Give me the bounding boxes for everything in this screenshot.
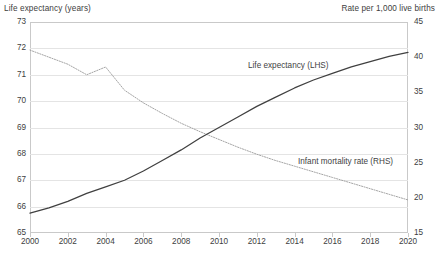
right-axis-tick-label: 15 bbox=[414, 229, 438, 237]
life-expectancy-line bbox=[30, 52, 408, 213]
left-axis-tick-label: 69 bbox=[4, 124, 26, 132]
left-axis-tick-label: 66 bbox=[4, 203, 26, 211]
x-axis-tick-label: 2014 bbox=[285, 238, 303, 246]
x-axis-tick-label: 2012 bbox=[248, 238, 266, 246]
x-axis-tick-label: 2002 bbox=[59, 238, 77, 246]
life-expectancy-label: Life expectancy (LHS) bbox=[248, 62, 329, 70]
left-axis-tick-label: 70 bbox=[4, 97, 26, 105]
x-axis-tick-label: 2018 bbox=[361, 238, 379, 246]
x-axis-tick-label: 2006 bbox=[134, 238, 152, 246]
left-axis-tick-label: 72 bbox=[4, 44, 26, 52]
x-axis-tick-label: 2020 bbox=[399, 238, 417, 246]
left-axis-tick-label: 68 bbox=[4, 150, 26, 158]
right-axis-tick-label: 20 bbox=[414, 194, 438, 202]
x-axis-tick-label: 2008 bbox=[172, 238, 190, 246]
left-axis-tick-label: 67 bbox=[4, 176, 26, 184]
series-lines bbox=[30, 22, 408, 233]
x-axis-tick-label: 2016 bbox=[323, 238, 341, 246]
left-axis-tick-label: 65 bbox=[4, 229, 26, 237]
left-axis-tick-label: 73 bbox=[4, 18, 26, 26]
right-axis-tick-label: 25 bbox=[414, 159, 438, 167]
infant-mortality-line bbox=[30, 50, 408, 200]
x-axis-tick-label: 2010 bbox=[210, 238, 228, 246]
right-axis-tick-label: 35 bbox=[414, 88, 438, 96]
right-axis-caption: Rate per 1,000 live births bbox=[341, 4, 435, 13]
right-axis-tick-label: 40 bbox=[414, 53, 438, 61]
left-axis-caption: Life expectancy (years) bbox=[4, 4, 91, 13]
chart-container: Life expectancy (years) Rate per 1,000 l… bbox=[0, 0, 440, 254]
right-axis-tick-label: 30 bbox=[414, 124, 438, 132]
x-axis-tick-label: 2000 bbox=[21, 238, 39, 246]
infant-mortality-label: Infant mortality rate (RHS) bbox=[298, 158, 393, 166]
x-axis-tick-label: 2004 bbox=[96, 238, 114, 246]
left-axis-tick-label: 71 bbox=[4, 71, 26, 79]
right-axis-tick-label: 45 bbox=[414, 18, 438, 26]
